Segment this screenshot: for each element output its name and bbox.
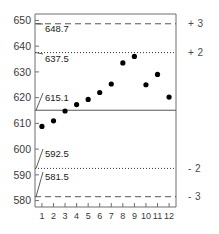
y-tick-label-610: 610 [13,117,31,129]
data-point-7 [109,81,114,86]
data-point-8 [120,60,125,65]
sigma-label-plus-3-sigma: + 3 [188,18,204,29]
data-point-12 [166,95,171,100]
limit-value-plus-3-sigma: 648.7 [45,23,69,34]
limit-value-center-line: 615.1 [45,92,69,103]
chart-background [0,0,219,234]
data-point-6 [97,90,102,95]
sigma-label-plus-2-sigma: + 2 [188,47,204,58]
x-tick-label-2: 2 [51,211,56,221]
data-point-5 [86,97,91,102]
sigma-label-minus-3-sigma: - 3 [188,191,201,202]
y-tick-label-640: 640 [13,40,31,52]
control-chart: 580590600610620630640650 123456789101112… [0,0,219,234]
x-tick-label-3: 3 [63,211,68,221]
data-point-2 [51,118,56,123]
y-tick-label-580: 580 [13,194,31,206]
limit-value-minus-3-sigma: 581.5 [45,171,69,182]
x-tick-label-12: 12 [164,211,174,221]
x-tick-label-11: 11 [153,211,162,221]
data-point-4 [74,102,79,107]
x-tick-label-10: 10 [141,211,151,221]
x-tick-label-7: 7 [109,211,114,221]
y-tick-label-600: 600 [13,143,31,155]
data-point-10 [143,82,148,87]
data-point-1 [39,124,44,129]
limit-value-plus-2-sigma: 637.5 [45,53,69,64]
x-tick-label-9: 9 [132,211,137,221]
control-chart-canvas: 580590600610620630640650 123456789101112… [0,0,219,234]
y-tick-label-650: 650 [13,14,31,26]
y-tick-label-630: 630 [13,66,31,78]
x-tick-label-6: 6 [97,211,102,221]
data-point-11 [155,72,160,77]
x-tick-label-1: 1 [39,211,44,221]
x-tick-label-4: 4 [74,211,79,221]
y-tick-label-620: 620 [13,91,31,103]
x-tick-label-5: 5 [86,211,91,221]
y-tick-label-590: 590 [13,169,31,181]
data-point-3 [62,108,67,113]
x-tick-label-8: 8 [120,211,125,221]
data-point-9 [132,54,137,59]
limit-value-minus-2-sigma: 592.5 [45,148,69,159]
sigma-label-minus-2-sigma: - 2 [188,163,201,174]
